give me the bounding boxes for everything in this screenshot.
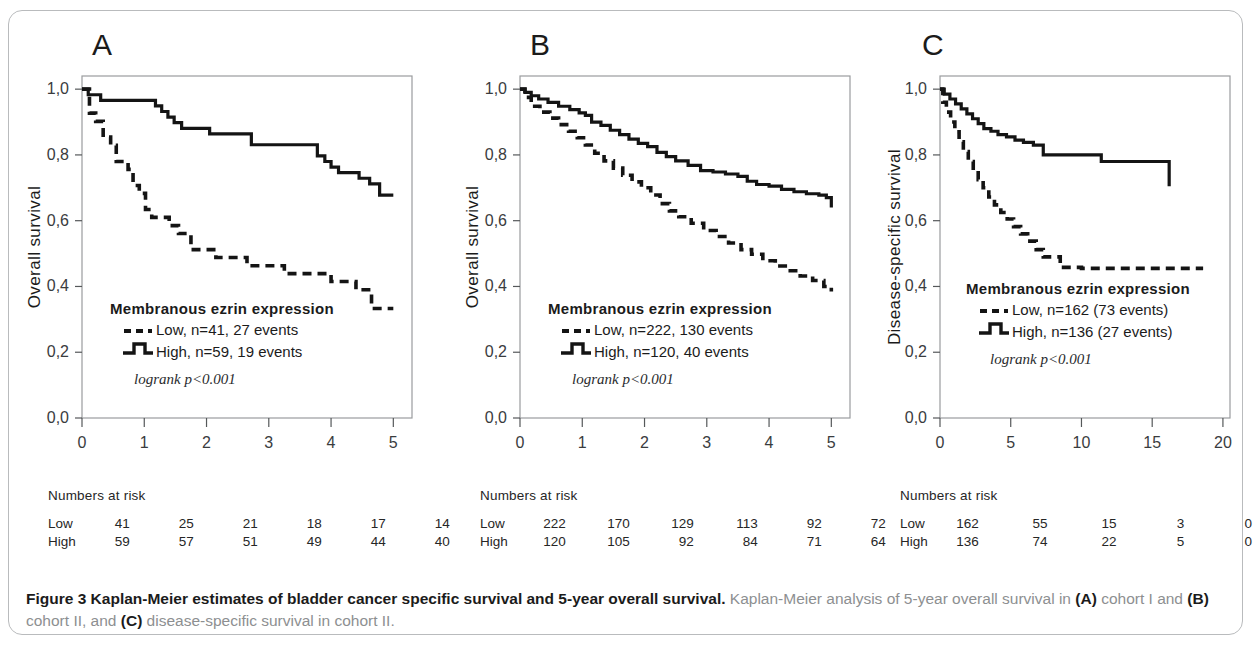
legend-title: Membranous ezrin expression [548,300,772,317]
panel-b-numbers-at-risk: Numbers at risk Low2221701291139272High1… [480,488,886,552]
x-tick-label: 4 [765,434,774,451]
y-axis-label: Overall survival [463,186,482,309]
km-curve-high [520,89,831,207]
legend-swatch-high [561,344,591,353]
x-tick-label: 2 [202,434,211,451]
risk-cell: 25 [130,516,194,534]
y-tick-label: 0,0 [905,409,927,426]
x-tick-label: 3 [264,434,273,451]
risk-cell: 72 [822,516,886,534]
plot-frame [82,76,412,418]
legend-label-high: High, n=120, 40 events [594,343,749,360]
y-tick-label: 0,2 [47,343,69,360]
legend: Membranous ezrin expressionLow, n=222, 1… [548,300,772,387]
risk-title-c: Numbers at risk [900,488,1252,503]
panel-a-numbers-at-risk: Numbers at risk Low412521181714High59575… [48,488,450,552]
risk-cell: 17 [322,516,386,534]
risk-row-label: Low [48,516,86,534]
risk-cell: 222 [518,516,566,534]
panel-c-plot: 0,00,20,40,60,81,005101520Years from dia… [882,18,1252,458]
x-tick-label: 0 [78,434,87,451]
legend-label-low: Low, n=162 (73 events) [1012,301,1168,318]
km-curve-low [82,89,393,308]
figure-container: A 0,00,20,40,60,81,0012345Years from dia… [0,0,1255,649]
y-tick-label: 0,4 [47,277,69,294]
caption-bold-lead: Figure 3 Kaplan-Meier estimates of bladd… [26,590,726,607]
risk-cell: 0 [1184,516,1252,534]
risk-row: Low162551530 [900,516,1252,534]
risk-row-label: Low [480,516,518,534]
legend: Membranous ezrin expressionLow, n=41, 27… [110,300,334,387]
risk-title-a: Numbers at risk [48,488,450,503]
x-tick-label: 4 [327,434,336,451]
risk-row-label: High [48,534,86,552]
risk-cell: 120 [518,534,566,552]
y-tick-label: 0,6 [47,212,69,229]
x-tick-label: 10 [1073,434,1091,451]
y-tick-label: 0,8 [47,146,69,163]
y-tick-label: 0,0 [485,409,507,426]
risk-cell: 18 [258,516,322,534]
risk-cell: 15 [1048,516,1117,534]
panel-c-numbers-at-risk: Numbers at risk Low162551530High13674225… [900,488,1252,552]
km-curve-high [940,89,1169,186]
risk-cell: 105 [566,534,630,552]
x-tick-label: 3 [702,434,711,451]
y-tick-label: 0,6 [485,212,507,229]
y-axis-label: Overall survival [25,186,44,309]
legend-swatch-high [979,324,1009,333]
risk-cell: 55 [979,516,1048,534]
legend-title: Membranous ezrin expression [110,300,334,317]
y-tick-label: 0,0 [47,409,69,426]
risk-cell: 0 [1184,534,1252,552]
risk-cell: 92 [630,534,694,552]
caption-text-1: Kaplan-Meier analysis of 5-year overall … [726,590,1076,607]
risk-row: High12010592847164 [480,534,886,552]
risk-row-label: High [900,534,938,552]
plot-frame [520,76,850,418]
risk-cell: 41 [86,516,130,534]
caption-ref-a: (A) [1075,590,1097,607]
risk-cell: 136 [938,534,979,552]
y-tick-label: 0,8 [905,146,927,163]
y-tick-label: 1,0 [485,80,507,97]
x-tick-label: 20 [1214,434,1232,451]
risk-title-b: Numbers at risk [480,488,886,503]
risk-cell: 113 [694,516,758,534]
risk-table-b: Low2221701291139272High12010592847164 [480,516,886,552]
y-tick-label: 0,6 [905,212,927,229]
risk-cell: 51 [194,534,258,552]
x-tick-label: 0 [936,434,945,451]
risk-cell: 64 [822,534,886,552]
km-curve-high [82,89,393,195]
legend-label-high: High, n=136 (27 events) [1012,323,1173,340]
risk-row: High595751494440 [48,534,450,552]
risk-cell: 40 [386,534,450,552]
panel-a-plot: 0,00,20,40,60,81,0012345Years from diagn… [14,18,454,458]
risk-cell: 22 [1048,534,1117,552]
risk-cell: 14 [386,516,450,534]
legend-logrank: logrank p<0.001 [990,351,1092,367]
risk-cell: 5 [1116,534,1184,552]
legend-title: Membranous ezrin expression [966,280,1190,297]
risk-cell: 21 [194,516,258,534]
risk-row: Low2221701291139272 [480,516,886,534]
caption-ref-c: (C) [121,612,143,629]
figure-caption: Figure 3 Kaplan-Meier estimates of bladd… [26,588,1226,633]
caption-text-3: cohort II, and [26,612,121,629]
panel-c: C 0,00,20,40,60,81,005101520Years from d… [882,18,1252,518]
x-tick-label: 1 [140,434,149,451]
risk-cell: 170 [566,516,630,534]
y-tick-label: 0,2 [905,343,927,360]
risk-cell: 59 [86,534,130,552]
risk-cell: 74 [979,534,1048,552]
x-tick-label: 1 [578,434,587,451]
panel-b: B 0,00,20,40,60,81,0012345Years from dia… [452,18,892,518]
risk-row-label: Low [900,516,938,534]
x-tick-label: 0 [516,434,525,451]
x-tick-label: 5 [827,434,836,451]
caption-ref-b: (B) [1187,590,1209,607]
risk-cell: 92 [758,516,822,534]
risk-cell: 49 [258,534,322,552]
risk-cell: 162 [938,516,979,534]
